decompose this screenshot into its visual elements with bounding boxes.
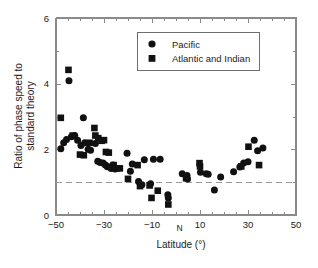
data-point-circle (211, 187, 218, 194)
legend-label-atlantic-indian: Atlantic and Indian (172, 53, 250, 64)
data-point-square (134, 162, 141, 169)
y-tick-label: 2 (44, 144, 49, 155)
data-point-square (245, 143, 252, 150)
y-tick-label: 4 (44, 78, 49, 89)
data-point-circle (251, 137, 258, 144)
legend-marker-atlantic-indian (149, 55, 156, 62)
data-point-square (238, 163, 245, 170)
data-point-square (117, 165, 124, 172)
data-point-square (58, 115, 65, 122)
data-point-circle (259, 145, 266, 152)
legend-marker-pacific (148, 40, 155, 47)
data-point-square (148, 195, 155, 202)
y-axis-title: Ratio of phase speed to standard theory (13, 63, 36, 169)
data-point-square (125, 176, 132, 183)
data-point-square (146, 182, 153, 189)
data-point-circle (245, 158, 252, 165)
data-point-square (197, 163, 204, 170)
data-point-circle (65, 77, 72, 84)
data-point-circle (141, 156, 148, 163)
x-tick-label: −10 (144, 219, 160, 230)
data-point-circle (165, 194, 172, 201)
data-point-square (165, 201, 172, 208)
x-tick-label: −50 (48, 219, 64, 230)
y-tick-label: 6 (44, 13, 49, 24)
data-point-square (101, 137, 108, 144)
data-point-square (137, 183, 144, 190)
series-atlantic-and-indian (58, 67, 263, 208)
y-tick-labels: 0246 (44, 13, 49, 221)
data-point-circle (127, 168, 134, 175)
data-point-circle (124, 150, 131, 157)
data-point-square (256, 162, 263, 169)
data-point-square (65, 67, 72, 74)
data-point-circle (217, 173, 224, 180)
data-series-group (57, 67, 266, 208)
x-tick-label: −30 (96, 219, 112, 230)
data-point-circle (87, 147, 94, 154)
x-tick-labels: −50−30−10103050 (48, 219, 301, 230)
x-axis-title: Latitude (°) (156, 239, 205, 250)
scatter-plot: 0246 −50−30−10103050 N Latitude (°) Rati… (0, 0, 318, 268)
data-point-square (183, 175, 190, 182)
x-tick-label: 30 (243, 219, 254, 230)
north-marker-label: N (177, 223, 183, 233)
data-point-circle (150, 156, 157, 163)
y-axis-title-line2: standard theory (25, 81, 36, 151)
data-point-square (91, 125, 98, 132)
x-tick-label: 50 (291, 219, 302, 230)
chart-figure: 0246 −50−30−10103050 N Latitude (°) Rati… (0, 0, 318, 268)
data-point-circle (205, 171, 212, 178)
data-point-square (81, 152, 88, 159)
legend: Pacific Atlantic and Indian (137, 32, 259, 70)
x-tick-label: 10 (195, 219, 206, 230)
data-point-circle (157, 156, 164, 163)
data-point-circle (80, 114, 87, 121)
data-point-square (154, 187, 161, 194)
data-point-square (86, 139, 93, 146)
data-point-square (70, 132, 77, 139)
legend-label-pacific: Pacific (172, 39, 200, 50)
data-point-square (106, 149, 113, 156)
data-point-circle (230, 168, 237, 175)
y-axis-title-line1: Ratio of phase speed to (13, 63, 24, 169)
